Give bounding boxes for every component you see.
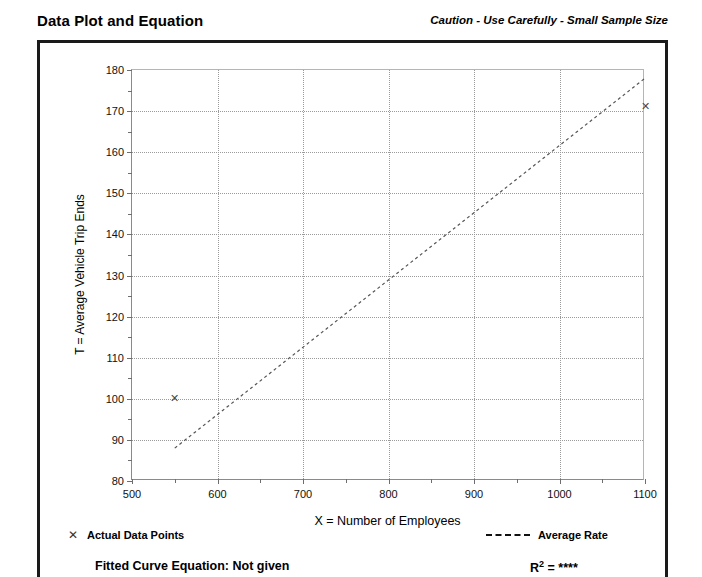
x-marker-icon: ✕ — [68, 529, 78, 541]
y-axis-tick-label: 120 — [106, 311, 124, 323]
y-axis-tick-label: 90 — [112, 434, 124, 446]
average-rate-trendline — [132, 70, 645, 481]
x-axis-tick-label: 900 — [465, 488, 483, 500]
x-axis-title: X = Number of Employees — [131, 514, 644, 528]
y-axis-tick-label: 150 — [106, 187, 124, 199]
plot-area: 8090100110120130140150160170180500600700… — [131, 69, 644, 480]
trendline-segment — [175, 78, 645, 448]
r-squared-symbol: R — [530, 561, 539, 575]
page-title: Data Plot and Equation — [37, 12, 203, 29]
caution-note: Caution - Use Carefully - Small Sample S… — [430, 14, 668, 26]
x-axis-tick-label: 1000 — [547, 488, 571, 500]
data-point-marker: ✕ — [169, 393, 180, 404]
dashed-line-icon — [486, 534, 530, 536]
legend-label-average-rate: Average Rate — [538, 529, 608, 541]
equation-row: Fitted Curve Equation: Not given R2 = **… — [40, 559, 671, 577]
r-squared-value: R2 = **** — [530, 559, 578, 575]
x-axis-tick — [645, 479, 646, 484]
legend-label-actual-data-points: Actual Data Points — [87, 529, 184, 541]
y-axis-tick-label: 170 — [106, 105, 124, 117]
x-axis-tick-label: 500 — [123, 488, 141, 500]
data-point-marker: ✕ — [640, 101, 651, 112]
x-axis-tick-label: 700 — [294, 488, 312, 500]
y-axis-tick-label: 180 — [106, 64, 124, 76]
y-axis-tick-label: 100 — [106, 393, 124, 405]
y-axis-tick-label: 160 — [106, 146, 124, 158]
chart-legend: ✕ Actual Data Points Average Rate — [40, 529, 671, 553]
figure-frame: T = Average Vehicle Trip Ends 8090100110… — [37, 40, 668, 577]
r-squared-number: = **** — [548, 561, 578, 575]
y-axis-tick-label: 80 — [112, 475, 124, 487]
legend-item-average-rate: Average Rate — [486, 529, 608, 541]
x-axis-tick-label: 1100 — [633, 488, 657, 500]
y-axis-tick-label: 130 — [106, 270, 124, 282]
x-axis-tick-label: 600 — [208, 488, 226, 500]
y-axis-tick-label: 110 — [106, 352, 124, 364]
r-squared-exponent: 2 — [539, 559, 544, 569]
fitted-curve-equation: Fitted Curve Equation: Not given — [95, 559, 289, 573]
x-axis-tick-label: 800 — [379, 488, 397, 500]
legend-item-actual-data-points: ✕ Actual Data Points — [68, 529, 184, 541]
y-axis-title: T = Average Vehicle Trip Ends — [73, 69, 91, 480]
y-axis-tick-label: 140 — [106, 228, 124, 240]
